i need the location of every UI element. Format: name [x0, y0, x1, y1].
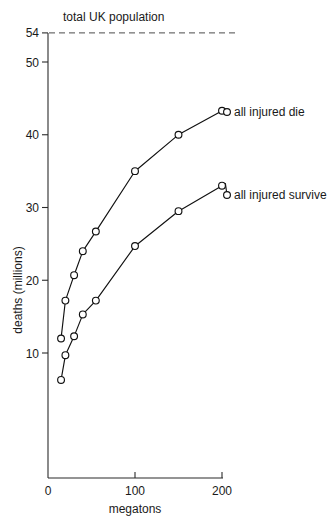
x-tick-label-0: 0 — [45, 484, 52, 498]
data-point-all-injured-die-2 — [71, 272, 78, 279]
data-point-all-injured-die-1 — [62, 297, 69, 304]
chart-figure: total UK population 102030405054 0100200… — [0, 0, 333, 527]
y-tick-label-20: 20 — [26, 274, 40, 288]
data-point-all-injured-die-3 — [79, 248, 86, 255]
x-axis-title: megatons — [109, 502, 162, 516]
data-point-all-injured-die-5 — [132, 168, 139, 175]
y-tick-label-50: 50 — [26, 56, 40, 70]
data-point-all-injured-survive-4 — [92, 297, 99, 304]
total-uk-population-label: total UK population — [63, 10, 164, 24]
x-tick-label-200: 200 — [212, 484, 232, 498]
y-tick-label-54: 54 — [26, 26, 40, 40]
data-point-all-injured-die-0 — [58, 335, 65, 342]
deaths-vs-megatons-chart: total UK population 102030405054 0100200… — [0, 0, 333, 527]
data-point-all-injured-survive-2 — [71, 333, 78, 340]
series-label-all-injured-survive: all injured survive — [234, 188, 327, 202]
data-point-all-injured-survive-7 — [219, 182, 226, 189]
data-point-all-injured-survive-3 — [79, 311, 86, 318]
y-axis-title: deaths (millions) — [11, 246, 25, 333]
x-tick-label-100: 100 — [125, 484, 145, 498]
data-point-all-injured-survive-1 — [62, 352, 69, 359]
series-label-marker-all-injured-survive — [224, 192, 231, 199]
y-tick-label-10: 10 — [26, 347, 40, 361]
data-point-all-injured-die-6 — [175, 131, 182, 138]
data-point-all-injured-die-4 — [92, 228, 99, 235]
series-label-marker-all-injured-die — [224, 109, 231, 116]
data-point-all-injured-survive-5 — [132, 243, 139, 250]
y-tick-label-30: 30 — [26, 201, 40, 215]
series-label-all-injured-die: all injured die — [234, 105, 305, 119]
data-point-all-injured-survive-0 — [58, 377, 65, 384]
plot-background — [0, 0, 333, 527]
data-point-all-injured-survive-6 — [175, 208, 182, 215]
y-tick-label-40: 40 — [26, 128, 40, 142]
